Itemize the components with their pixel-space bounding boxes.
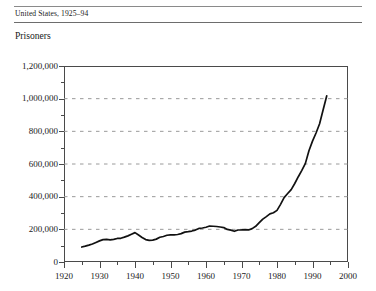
x-tick-major — [171, 262, 172, 268]
x-tick-minor — [259, 262, 260, 265]
y-tick-label: 600,000 — [2, 159, 58, 169]
data-line-group — [82, 96, 327, 247]
y-tick-major — [59, 131, 64, 132]
y-axis-title: Prisoners — [15, 30, 51, 42]
y-tick-label: 1,000,000 — [2, 93, 58, 103]
x-tick-minor — [330, 262, 331, 265]
chart-figure: United States, 1925–94 Prisoners 0200,00… — [0, 0, 376, 291]
x-tick-minor — [153, 262, 154, 265]
y-tick-minor — [61, 180, 64, 181]
y-tick-minor — [61, 213, 64, 214]
y-tick-minor — [61, 148, 64, 149]
x-tick-label: 1950 — [151, 271, 191, 281]
x-tick-minor — [188, 262, 189, 265]
x-tick-label: 1940 — [115, 271, 155, 281]
x-tick-label: 1930 — [80, 271, 120, 281]
x-tick-label: 1920 — [44, 271, 84, 281]
y-tick-major — [59, 229, 64, 230]
y-tick-label: 1,200,000 — [2, 61, 58, 71]
x-tick-label: 1970 — [222, 271, 262, 281]
y-tick-major — [59, 66, 64, 67]
header-rule-top — [14, 6, 362, 7]
x-tick-major — [313, 262, 314, 268]
y-tick-minor — [61, 115, 64, 116]
chart-caption: United States, 1925–94 — [15, 8, 88, 19]
x-tick-major — [135, 262, 136, 268]
x-tick-major — [64, 262, 65, 268]
y-tick-minor — [61, 82, 64, 83]
x-tick-major — [277, 262, 278, 268]
y-tick-label: 0 — [2, 257, 58, 267]
y-tick-major — [59, 164, 64, 165]
x-tick-label: 1960 — [186, 271, 226, 281]
prisoners-line — [82, 96, 327, 247]
x-tick-label: 1990 — [293, 271, 333, 281]
x-tick-label: 2000 — [328, 271, 368, 281]
x-tick-major — [348, 262, 349, 268]
x-tick-minor — [224, 262, 225, 265]
x-tick-major — [242, 262, 243, 268]
y-tick-major — [59, 197, 64, 198]
x-tick-label: 1980 — [257, 271, 297, 281]
x-tick-minor — [295, 262, 296, 265]
y-tick-label: 800,000 — [2, 126, 58, 136]
y-tick-label: 400,000 — [2, 191, 58, 201]
y-tick-label: 200,000 — [2, 224, 58, 234]
y-tick-major — [59, 99, 64, 100]
x-tick-minor — [117, 262, 118, 265]
plot-area — [64, 66, 348, 262]
x-tick-major — [206, 262, 207, 268]
x-tick-minor — [82, 262, 83, 265]
header-rule-bottom — [14, 22, 362, 23]
y-tick-minor — [61, 246, 64, 247]
x-tick-major — [100, 262, 101, 268]
